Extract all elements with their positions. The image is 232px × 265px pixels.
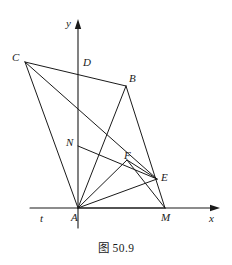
x-axis-line-arrowhead xyxy=(210,205,220,211)
tangent-line-label: t xyxy=(40,213,43,224)
segment-A-F xyxy=(78,160,127,208)
diagram-canvas xyxy=(0,0,232,265)
segment-B-A xyxy=(78,86,126,208)
geometry-figure: CDBNFEAM x y t 图 50.9 xyxy=(0,0,232,265)
point-label-A: A xyxy=(71,212,78,223)
segment-C-A xyxy=(25,62,78,208)
segment-B-M xyxy=(126,86,165,208)
axes-group xyxy=(30,19,220,228)
figure-caption: 图 50.9 xyxy=(0,239,232,255)
y-axis-line-arrowhead xyxy=(75,19,81,29)
point-label-M: M xyxy=(161,212,170,223)
segment-F-M xyxy=(127,160,165,208)
point-label-D: D xyxy=(83,57,91,68)
point-label-B: B xyxy=(129,73,136,84)
point-label-N: N xyxy=(66,137,73,148)
point-label-E: E xyxy=(161,172,168,183)
segments-group xyxy=(25,62,165,208)
segment-C-B xyxy=(25,62,126,86)
point-label-C: C xyxy=(12,52,19,63)
x-axis-label: x xyxy=(209,213,214,224)
point-label-F: F xyxy=(124,150,131,161)
segment-N-E xyxy=(78,146,157,179)
y-axis-label: y xyxy=(66,18,71,29)
